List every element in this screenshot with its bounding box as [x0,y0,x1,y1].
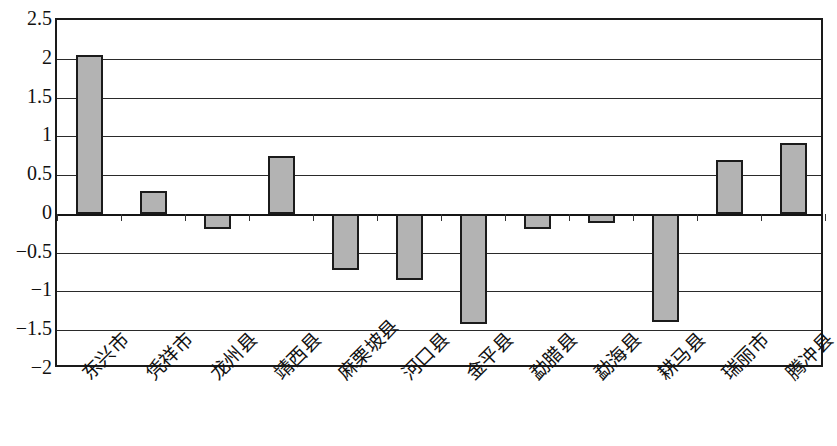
bar [332,214,359,270]
y-axis-tick-labels: 2.521.510.50−0.5−1−1.5−2 [0,0,52,380]
x-axis-tick [761,214,762,221]
x-axis-tick [185,214,186,221]
bar [524,214,551,229]
gridline [57,175,821,176]
bar [716,160,743,214]
x-axis-tick [377,214,378,221]
bar [268,156,295,214]
bar [780,143,807,214]
x-axis-tick [569,214,570,221]
y-axis-tick-label: −0.5 [2,241,52,261]
gridline [57,253,821,254]
gridline [57,59,821,60]
bar [140,191,167,214]
gridline [57,98,821,99]
x-axis-tick [249,214,250,221]
bar [396,214,423,280]
zero-line [57,214,821,216]
gridline [57,136,821,137]
y-axis-tick-label: 1 [2,124,52,144]
y-axis-tick-label: 1.5 [2,86,52,106]
x-axis-category-labels: 东兴市凭祥市龙州县靖西县麻栗坡县河口县金平县勐腊县勐海县耕马县瑞丽市腾冲县 [55,369,823,446]
bar [588,214,615,223]
x-axis-tick [825,214,826,221]
y-axis-tick-label: 0 [2,202,52,222]
x-axis-tick [313,214,314,221]
y-axis-tick-label: 2.5 [2,8,52,28]
y-axis-tick-label: 0.5 [2,163,52,183]
x-axis-tick [633,214,634,221]
x-axis-tick [441,214,442,221]
y-axis-tick-label: −2 [2,357,52,377]
x-axis-tick [57,214,58,221]
bar [652,214,679,323]
plot-area [55,18,823,367]
y-axis-tick-label: −1.5 [2,318,52,338]
bar [204,214,231,229]
gridline [57,291,821,292]
x-axis-tick [697,214,698,221]
x-axis-tick [505,214,506,221]
y-axis-tick-label: −1 [2,279,52,299]
x-axis-tick [121,214,122,221]
y-axis-tick-label: 2 [2,47,52,67]
bar [460,214,487,324]
bar [76,55,103,214]
